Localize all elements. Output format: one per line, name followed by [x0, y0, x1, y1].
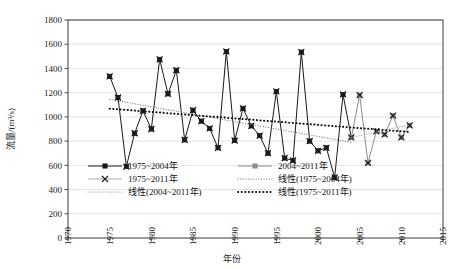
y-tick-label: 800	[49, 136, 63, 146]
legend-item-label: 线性(2004~2011年)	[128, 186, 202, 197]
legend-marker-sample	[253, 164, 257, 168]
y-tick-label: 1400	[44, 64, 63, 74]
x-tick-label: 2010	[397, 227, 407, 246]
y-tick-label: 0	[58, 233, 63, 243]
x-tick-label: 2015	[438, 227, 448, 246]
x-tick-label: 1985	[188, 227, 198, 246]
legend-item-label: 2004~2011年	[278, 160, 328, 171]
legend-item-label: 线性(1975~2004年)	[278, 173, 352, 184]
x-tick-label: 1995	[272, 227, 282, 246]
y-tick-label: 400	[49, 185, 63, 195]
x-tick-label: 1990	[230, 227, 240, 246]
y-tick-label: 1600	[44, 39, 63, 49]
x-tick-label: 2000	[313, 227, 323, 246]
y-tick-label: 600	[49, 161, 63, 171]
y-tick-label: 1200	[44, 88, 63, 98]
y-tick-label: 200	[49, 209, 63, 219]
flow-discharge-chart: 0200400600800100012001400160018001970197…	[0, 0, 463, 269]
x-tick-label: 1970	[63, 227, 73, 246]
y-axis-title: 流量/(m³/s)	[5, 108, 16, 150]
y-tick-label: 1000	[44, 112, 63, 122]
x-axis-title: 年份	[223, 253, 241, 264]
legend-item-label: 1975~2004年	[128, 160, 178, 171]
legend-item-label: 1975~2011年	[128, 173, 178, 184]
legend-marker-sample	[103, 164, 107, 168]
x-tick-label: 1980	[147, 227, 157, 246]
x-tick-label: 2005	[355, 227, 365, 246]
x-tick-label: 1975	[105, 227, 115, 246]
chart-canvas: 0200400600800100012001400160018001970197…	[0, 0, 463, 269]
legend-item-label: 线性(1975~2011年)	[278, 186, 352, 197]
y-tick-label: 1800	[44, 15, 63, 25]
